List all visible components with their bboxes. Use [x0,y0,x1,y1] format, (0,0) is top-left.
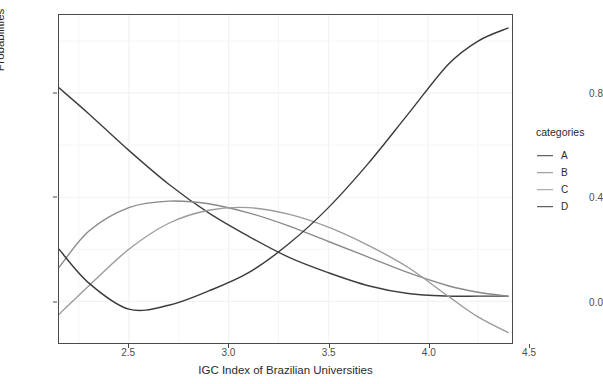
legend-key-icon [536,184,554,196]
series-line-C [59,207,508,332]
y-axis-title: Probabilities [0,0,6,130]
x-tick-label: 2.5 [108,347,148,358]
legend-item-B[interactable]: B [536,164,600,181]
legend-label: A [561,150,568,161]
chart-container: Probabilities 0.00.40.8 2.53.03.54.04.5 … [0,0,603,384]
x-tick-mark [228,344,229,348]
y-tick-label: 0.8 [557,87,603,98]
legend-title: categories [536,126,600,138]
legend-label: C [561,184,568,195]
y-tick-mark [53,92,57,93]
x-tick-mark [329,344,330,348]
x-tick-label: 3.5 [309,347,349,358]
series-line-A [59,88,508,296]
legend-key-icon [536,167,554,179]
plot-area [59,15,512,343]
legend-label: B [561,167,568,178]
y-tick-mark [53,197,57,198]
x-tick-label: 4.0 [409,347,449,358]
x-tick-label: 4.5 [509,347,549,358]
x-tick-label: 3.0 [208,347,248,358]
series-curves [59,28,508,333]
x-tick-mark [128,344,129,348]
legend-key-icon [536,201,554,213]
x-tick-mark [429,344,430,348]
legend-item-C[interactable]: C [536,181,600,198]
legend: categories ABCD [536,126,600,215]
legend-item-D[interactable]: D [536,198,600,215]
y-tick-label: 0.0 [557,297,603,308]
x-tick-mark [529,344,530,348]
x-axis-title: IGC Index of Brazilian Universities [58,364,513,376]
y-tick-mark [53,302,57,303]
legend-items: ABCD [536,147,600,215]
legend-key-icon [536,150,554,162]
legend-item-A[interactable]: A [536,147,600,164]
plot-panel [58,14,513,344]
legend-label: D [561,201,568,212]
series-line-D [59,28,508,311]
